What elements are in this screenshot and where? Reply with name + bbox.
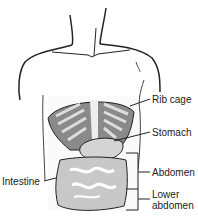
intestine-drawing	[56, 157, 127, 210]
label-stomach: Stomach	[152, 127, 191, 138]
label-lower-abdomen-1: Lower	[152, 189, 179, 200]
label-intestine: Intestine	[2, 176, 40, 187]
label-abdomen: Abdomen	[152, 167, 195, 178]
label-lower-abdomen-2: abdomen	[152, 200, 194, 211]
label-rib-cage: Rib cage	[152, 94, 191, 105]
